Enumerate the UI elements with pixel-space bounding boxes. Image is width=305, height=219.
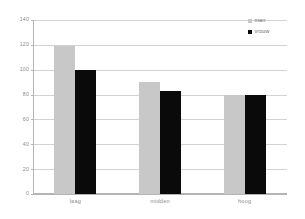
- legend-item-vrouw[interactable]: vrouw: [248, 27, 269, 36]
- y-axis-tick-label: 120: [5, 42, 29, 47]
- y-axis-tick-label: 60: [5, 117, 29, 122]
- bar-laag-vrouw: [75, 70, 96, 194]
- gridline-y-0: [34, 194, 287, 195]
- legend-item-man[interactable]: man: [248, 16, 269, 25]
- y-axis-tick-label: 40: [5, 142, 29, 147]
- y-axis-tick-label: 140: [5, 17, 29, 22]
- y-tick-mark-100: [31, 70, 34, 71]
- legend-label-vrouw: vrouw: [255, 29, 270, 34]
- y-axis-tick-label: 20: [5, 167, 29, 172]
- y-axis-tick-label: 0: [5, 191, 29, 196]
- y-tick-mark-80: [31, 95, 34, 96]
- y-tick-mark-140: [31, 20, 34, 21]
- y-tick-mark-0: [31, 194, 34, 195]
- y-tick-mark-40: [31, 144, 34, 145]
- bar-midden-man: [139, 82, 160, 194]
- x-axis-tick-label-laag: laag: [33, 199, 118, 205]
- bar-hoog-man: [224, 95, 245, 194]
- y-axis-tick-label: 80: [5, 92, 29, 97]
- x-axis-tick-label-midden: midden: [118, 199, 203, 205]
- y-tick-mark-60: [31, 119, 34, 120]
- chart-legend: manvrouw: [248, 16, 269, 38]
- legend-swatch-icon-vrouw: [248, 30, 252, 34]
- bar-laag-man: [54, 46, 75, 194]
- x-axis-tick-label-hoog: hoog: [202, 199, 287, 205]
- y-axis-tick-label: 100: [5, 67, 29, 72]
- legend-label-man: man: [255, 18, 266, 23]
- y-tick-mark-120: [31, 45, 34, 46]
- bar-midden-vrouw: [160, 91, 181, 194]
- legend-swatch-icon-man: [248, 19, 252, 23]
- y-tick-mark-20: [31, 169, 34, 170]
- bar-hoog-vrouw: [245, 95, 266, 194]
- bar-chart: 020406080100120140 laagmiddenhoog manvro…: [0, 0, 305, 219]
